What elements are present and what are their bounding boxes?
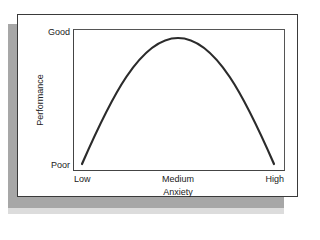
y-axis-title: Performance (36, 74, 45, 126)
x-axis-title: Anxiety (163, 188, 193, 197)
x-tick-medium: Medium (162, 175, 194, 184)
y-tick-poor: Poor (51, 161, 70, 170)
x-tick-low: Low (74, 175, 91, 184)
y-tick-good: Good (48, 28, 70, 37)
x-tick-high: High (265, 175, 284, 184)
